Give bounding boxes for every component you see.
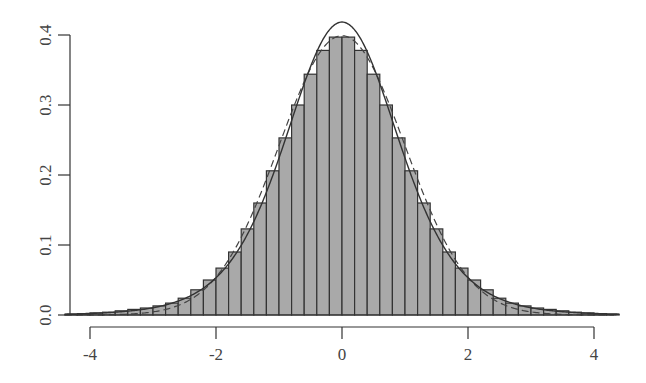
histogram-bar xyxy=(317,50,330,315)
x-tick-label: -2 xyxy=(209,345,223,364)
histogram-bar xyxy=(481,290,494,315)
histogram-chart: 0.0 0.1 0.2 0.3 0.4 -4 xyxy=(0,0,646,383)
x-tick-label: -4 xyxy=(83,345,98,364)
y-tick: 0.4 xyxy=(36,24,71,46)
histogram-bar xyxy=(405,171,418,315)
y-tick: 0.0 xyxy=(36,304,71,325)
histogram-bar xyxy=(342,37,355,315)
histogram-bars xyxy=(65,37,619,315)
x-tick: 2 xyxy=(464,327,473,364)
histogram-bar xyxy=(292,105,305,315)
histogram-bar xyxy=(254,203,267,315)
y-tick-label: 0.2 xyxy=(36,164,55,185)
x-tick: -2 xyxy=(209,327,223,364)
x-tick: -4 xyxy=(83,327,98,364)
y-tick-label: 0.0 xyxy=(36,304,55,325)
histogram-bar xyxy=(468,280,481,315)
x-tick: 0 xyxy=(338,327,347,364)
x-tick-label: 2 xyxy=(464,345,473,364)
histogram-bar xyxy=(203,280,216,315)
histogram-bar xyxy=(266,171,279,315)
histogram-bar xyxy=(392,138,405,315)
histogram-bar xyxy=(380,105,393,315)
histogram-bar xyxy=(304,74,317,315)
histogram-bar xyxy=(418,203,431,315)
y-tick: 0.2 xyxy=(36,164,71,185)
x-tick: 4 xyxy=(590,327,599,364)
x-tick-label: 4 xyxy=(590,345,599,364)
x-axis: -4 -2 0 2 4 xyxy=(83,327,599,364)
x-tick-label: 0 xyxy=(338,345,347,364)
y-axis: 0.0 0.1 0.2 0.3 0.4 xyxy=(36,24,71,326)
y-axis-ticks: 0.0 0.1 0.2 0.3 0.4 xyxy=(36,24,71,326)
y-tick-label: 0.3 xyxy=(36,94,55,115)
y-tick-label: 0.4 xyxy=(36,24,55,46)
histogram-bar xyxy=(329,37,342,315)
histogram-bar xyxy=(355,50,368,315)
histogram-bar xyxy=(191,290,204,315)
y-tick: 0.3 xyxy=(36,94,71,115)
y-tick-label: 0.1 xyxy=(36,234,55,255)
y-tick: 0.1 xyxy=(36,234,71,255)
histogram-bar xyxy=(367,74,380,315)
histogram-bar xyxy=(279,138,292,315)
